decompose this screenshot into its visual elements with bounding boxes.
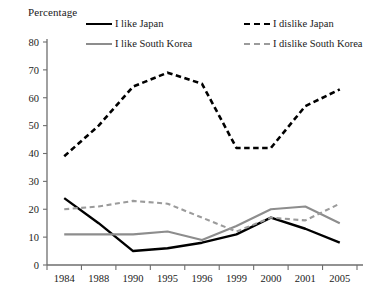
y-axis-tick-label: 0 — [34, 260, 39, 271]
y-axis-tick-label: 70 — [29, 65, 40, 76]
y-axis-tick-label: 20 — [29, 204, 40, 215]
x-axis-tick-label: 1990 — [123, 273, 144, 284]
y-axis-tick-label: 40 — [29, 148, 40, 159]
x-axis-tick-label: 2001 — [295, 273, 316, 284]
x-axis-tick-label: 1999 — [226, 273, 247, 284]
y-axis-tick-label: 10 — [29, 232, 40, 243]
y-axis-tick-label: 60 — [29, 93, 40, 104]
y-axis-tick-label: 50 — [29, 120, 40, 131]
plot-area: 0102030405060708019841988199019951996199… — [0, 0, 370, 290]
y-axis-tick-label: 80 — [29, 37, 40, 48]
y-axis-tick-label: 30 — [29, 176, 40, 187]
x-axis-tick-label: 2005 — [329, 273, 350, 284]
data-series-line — [64, 206, 340, 239]
x-axis-tick-label: 2000 — [260, 273, 281, 284]
x-axis-tick-label: 1995 — [157, 273, 178, 284]
line-chart: Percentage I like Japan I dislike Japan … — [0, 0, 370, 290]
x-axis-tick-label: 1984 — [54, 273, 76, 284]
x-axis-tick-label: 1988 — [88, 273, 109, 284]
data-series-line — [64, 73, 340, 157]
x-axis-tick-label: 1996 — [192, 273, 213, 284]
